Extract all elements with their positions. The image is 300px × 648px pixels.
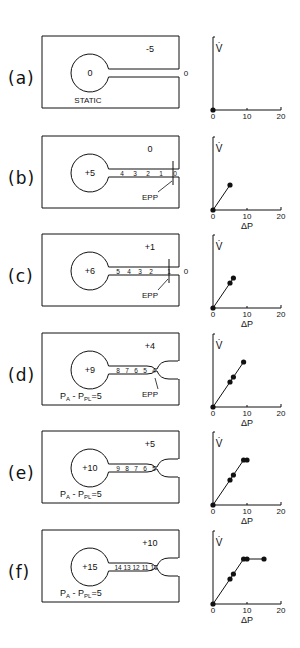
airway-pressure: 2 [146,170,150,177]
y-axis-label: V̇ [216,437,223,449]
data-point [231,275,236,280]
data-point [227,379,232,384]
flow-curve [213,362,244,407]
data-point [231,571,236,576]
airway-pressure: 14 [114,564,122,571]
thorax-box [42,36,179,108]
x-tick-label: 20 [277,606,286,615]
data-point [227,182,232,187]
x-tick-label: 20 [277,112,286,121]
panel-b: (b)EPP+5043210V̇01020ΔP [0,136,300,236]
panel-a: (a)0-50STATICV̇01020 [0,36,300,136]
airway-pressure: 10 [150,564,158,571]
x-axis-label: ΔP [241,319,253,329]
airway-pressure: 5 [143,367,147,374]
panel-d: (d)EPP+9+487654PA - PPL=5V̇01020ΔP [0,333,300,433]
alveolar-pressure: +9 [85,365,95,375]
airway-pressure: 9 [116,465,120,472]
pa-ppl-label: PA - PPL=5 [60,391,102,402]
panel-drawing: EPP+5043210V̇01020ΔP [0,136,300,236]
epp-arrow [158,279,168,290]
airway-pressure: 6 [143,465,147,472]
thorax-box [42,234,179,306]
airway-pressure: 1 [159,170,163,177]
x-tick-label: 10 [243,212,252,221]
airway-pressure: 13 [123,564,131,571]
flow-pressure-chart: V̇01020ΔP [210,137,286,231]
data-point [227,576,232,581]
epp-label: EPP [142,390,158,399]
y-axis-label: V̇ [216,42,223,54]
alveolar-pressure: +10 [82,463,97,473]
epp-label: EPP [142,291,158,300]
y-axis-label: V̇ [216,536,223,548]
x-tick-label: 0 [211,606,216,615]
chart-axes [213,37,281,110]
data-point [227,280,232,285]
airway-pressure: 12 [132,564,140,571]
pleural-pressure: +4 [145,341,155,351]
alveolar-pressure: +6 [85,266,95,276]
data-point [244,457,249,462]
x-tick-label: 10 [243,409,252,418]
x-tick-label: 10 [243,112,252,121]
x-tick-label: 0 [211,310,216,319]
airway-pressure: 3 [138,268,142,275]
flow-pressure-chart: V̇01020ΔP [210,432,286,526]
chart-axes [213,334,281,407]
flow-pressure-chart: V̇01020 [210,37,286,121]
panel-drawing: +15+101413121110PA - PPL=5V̇01020ΔP [0,530,300,630]
panel-c: (c)EPP+6+1054321V̇01020ΔP [0,234,300,334]
epp-arrow [158,181,172,192]
pa-ppl-label: PA - PPL=5 [60,489,102,500]
airway-pressure: 4 [120,170,124,177]
airway-pressure: 4 [152,367,156,374]
data-point [231,374,236,379]
airway-pressure: 8 [125,465,129,472]
flow-curve [213,185,230,210]
data-point [227,477,232,482]
y-axis-label: V̇ [216,339,223,351]
flow-pressure-chart: V̇01020ΔP [210,531,286,625]
data-point [244,556,249,561]
epp-arrow [155,378,158,389]
x-tick-label: 0 [211,212,216,221]
data-point [231,472,236,477]
airway-pressure: 2 [149,268,153,275]
data-point [241,359,246,364]
airway-pressure: 4 [127,268,131,275]
x-axis-label: ΔP [241,418,253,428]
x-tick-label: 0 [211,507,216,516]
airway-pressure: 8 [116,367,120,374]
y-axis-label: V̇ [216,240,223,252]
x-tick-label: 20 [277,409,286,418]
chart-axes [213,432,281,505]
airway-pressure: 7 [134,465,138,472]
alveolar-pressure: +15 [82,562,97,572]
flow-curve [213,559,264,604]
airway [109,69,179,77]
mouth-pressure: 0 [184,267,189,276]
panel-drawing: +10+598765PA - PPL=5V̇01020ΔP [0,431,300,531]
pleural-pressure: +10 [142,538,157,548]
airway-pressure: 6 [134,367,138,374]
airway-pressure: 3 [133,170,137,177]
data-point [210,404,215,409]
x-tick-label: 10 [243,310,252,319]
pleural-pressure: 0 [147,144,152,154]
airway-pressure: 5 [152,465,156,472]
airway [109,169,179,177]
airway-pressure: 11 [142,564,149,571]
x-axis-label: ΔP [241,615,253,625]
panel-drawing: EPP+9+487654PA - PPL=5V̇01020ΔP [0,333,300,433]
pleural-pressure: +1 [145,242,155,252]
x-tick-label: 20 [277,507,286,516]
data-point [210,601,215,606]
pleural-pressure: -5 [146,44,154,54]
airway-pressure: 1 [167,268,171,275]
epp-label: EPP [142,193,158,202]
data-point [210,207,215,212]
x-tick-label: 0 [211,112,216,121]
data-point [210,502,215,507]
mouth-pressure: 0 [184,69,189,78]
